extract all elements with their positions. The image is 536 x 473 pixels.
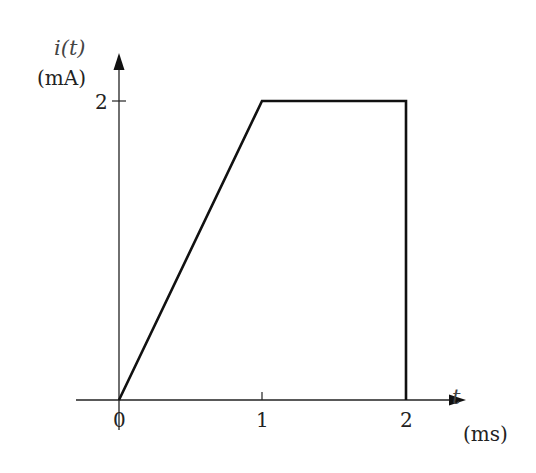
xtick-label-2: 2 — [400, 408, 413, 432]
ytick-label-2: 2 — [95, 90, 108, 114]
current-waveform-diagram: i(t) (mA) 2 0 1 2 t (ms) — [0, 0, 536, 473]
current-waveform — [119, 101, 406, 400]
y-axis-unit: (mA) — [37, 66, 86, 90]
y-axis-label: i(t) — [54, 36, 86, 60]
x-axis-label: t — [452, 385, 461, 409]
y-axis-arrowhead-icon — [114, 53, 125, 70]
x-axis-unit: (ms) — [463, 422, 508, 446]
xtick-label-1: 1 — [256, 408, 269, 432]
xtick-label-0: 0 — [113, 408, 126, 432]
